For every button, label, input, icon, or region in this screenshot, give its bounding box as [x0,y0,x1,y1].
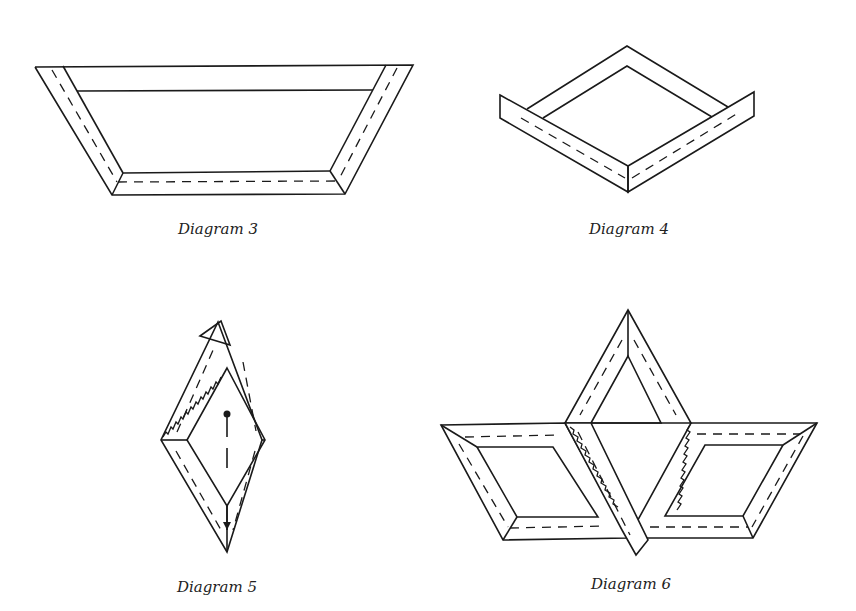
caption-diagram-3: Diagram 3 [178,220,258,238]
pin-head-icon [224,411,231,418]
arrow-down-icon [223,522,231,530]
caption-diagram-5: Diagram 5 [177,578,257,596]
diagram-canvas [0,0,856,611]
diagram-4-drawing [500,46,754,192]
caption-diagram-4: Diagram 4 [589,220,669,238]
diagram-5-drawing [161,321,265,552]
caption-diagram-6: Diagram 6 [591,575,671,593]
diagram-6-drawing [441,310,817,555]
diagram-3-drawing [35,65,413,195]
